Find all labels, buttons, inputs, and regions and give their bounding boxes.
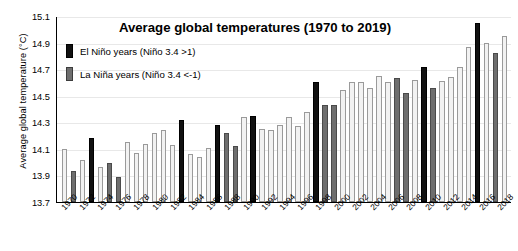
bar-2009 bbox=[412, 80, 417, 202]
bar-slot bbox=[419, 17, 428, 202]
bar-2002 bbox=[349, 82, 354, 202]
bar-2019 bbox=[502, 36, 507, 202]
y-axis-title: Average global temperature (°C) bbox=[18, 16, 28, 186]
bar-slot bbox=[401, 17, 410, 202]
bar-1997 bbox=[304, 112, 309, 202]
bar-1982 bbox=[170, 145, 175, 202]
bar-2018 bbox=[493, 53, 498, 202]
bar-1998 bbox=[313, 82, 318, 202]
bar-1996 bbox=[295, 126, 300, 202]
bar-2007 bbox=[394, 78, 399, 202]
legend-label-el-nino: El Niño years (Niño 3.4 >1) bbox=[80, 46, 195, 57]
bar-slot bbox=[365, 17, 374, 202]
bar-1983 bbox=[179, 120, 184, 202]
bar-1992 bbox=[259, 129, 264, 202]
bar-slot bbox=[455, 17, 464, 202]
bar-1994 bbox=[277, 125, 282, 202]
bar-2004 bbox=[367, 88, 372, 202]
bar-slot bbox=[482, 17, 491, 202]
bar-slot bbox=[383, 17, 392, 202]
bar-slot bbox=[294, 17, 303, 202]
bar-1986 bbox=[206, 148, 211, 202]
bar-2008 bbox=[403, 93, 408, 202]
bar-slot bbox=[321, 17, 330, 202]
bar-1980 bbox=[152, 133, 157, 202]
bar-slot bbox=[204, 17, 213, 202]
bar-2014 bbox=[457, 67, 462, 203]
x-axis-tick-labels: 1970197219741976197819801982198419861988… bbox=[56, 205, 511, 251]
bar-slot bbox=[222, 17, 231, 202]
bar-2012 bbox=[439, 81, 444, 202]
bar-slot bbox=[491, 17, 500, 202]
bar-slot bbox=[249, 17, 258, 202]
bar-2005 bbox=[376, 76, 381, 202]
bar-slot bbox=[356, 17, 365, 202]
bar-1991 bbox=[250, 116, 255, 202]
legend-swatch-la-nina-icon bbox=[66, 67, 73, 81]
bar-1995 bbox=[286, 117, 291, 202]
bar-slot bbox=[339, 17, 348, 202]
bar-2006 bbox=[385, 82, 390, 202]
bar-slot bbox=[258, 17, 267, 202]
bar-2016 bbox=[475, 23, 480, 202]
temperature-bar-chart: Average global temperature (°C) 13.713.9… bbox=[0, 0, 518, 251]
bar-slot bbox=[276, 17, 285, 202]
bar-slot bbox=[464, 17, 473, 202]
bar-1970 bbox=[62, 149, 67, 202]
bar-slot bbox=[392, 17, 401, 202]
bar-2015 bbox=[466, 47, 471, 202]
bar-2017 bbox=[484, 43, 489, 202]
bar-slot bbox=[410, 17, 419, 202]
bar-slot bbox=[428, 17, 437, 202]
legend-item-la-nina: La Niña years (Niño 3.4 <-1) bbox=[66, 67, 201, 81]
legend: El Niño years (Niño 3.4 >1) La Niña year… bbox=[66, 44, 201, 90]
bar-2011 bbox=[430, 88, 435, 202]
bar-slot bbox=[285, 17, 294, 202]
bar-2001 bbox=[340, 90, 345, 202]
bar-2003 bbox=[358, 82, 363, 202]
legend-label-la-nina: La Niña years (Niño 3.4 <-1) bbox=[80, 69, 201, 80]
bar-slot bbox=[231, 17, 240, 202]
bar-2013 bbox=[448, 77, 453, 202]
legend-item-el-nino: El Niño years (Niño 3.4 >1) bbox=[66, 44, 201, 58]
bar-1990 bbox=[241, 117, 246, 202]
bar-slot bbox=[473, 17, 482, 202]
bar-1999 bbox=[322, 105, 327, 202]
bar-slot bbox=[213, 17, 222, 202]
legend-swatch-el-nino-icon bbox=[66, 44, 73, 58]
bar-slot bbox=[303, 17, 312, 202]
bar-2010 bbox=[421, 67, 426, 203]
bar-slot bbox=[374, 17, 383, 202]
bar-1978 bbox=[134, 153, 139, 202]
bar-slot bbox=[330, 17, 339, 202]
bar-slot bbox=[446, 17, 455, 202]
bar-slot bbox=[348, 17, 357, 202]
bar-slot bbox=[267, 17, 276, 202]
bar-1984 bbox=[188, 154, 193, 202]
bar-slot bbox=[240, 17, 249, 202]
bar-slot bbox=[437, 17, 446, 202]
chart-title: Average global temperatures (1970 to 201… bbox=[90, 20, 420, 35]
y-axis-tick-label: 13.7 bbox=[16, 198, 50, 208]
bar-1972 bbox=[80, 160, 85, 203]
bar-slot bbox=[500, 17, 509, 202]
bar-2000 bbox=[331, 105, 336, 202]
bar-slot bbox=[312, 17, 321, 202]
bar-1988 bbox=[224, 133, 229, 202]
